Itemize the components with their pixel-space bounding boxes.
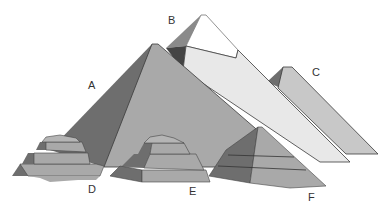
pyramids-diagram: [0, 0, 392, 209]
label-f: F: [308, 192, 315, 203]
label-c: C: [312, 67, 320, 78]
label-e: E: [189, 186, 196, 197]
label-a: A: [88, 80, 95, 91]
label-d: D: [88, 184, 96, 195]
label-b: B: [168, 15, 175, 26]
